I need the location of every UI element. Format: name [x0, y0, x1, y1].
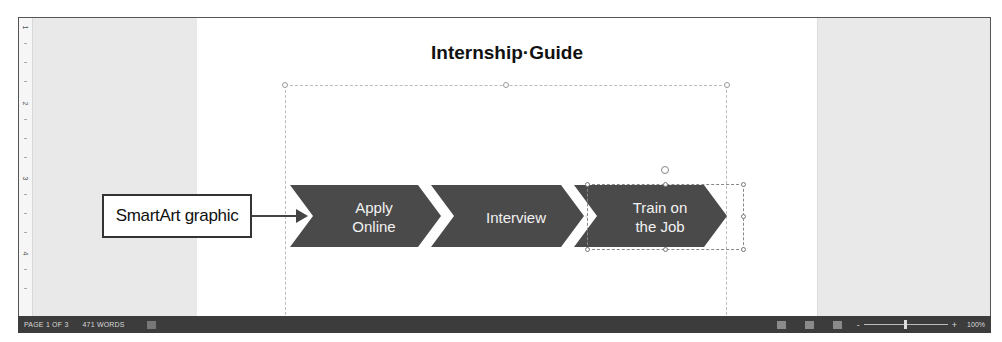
word-count[interactable]: 471 WORDS — [82, 321, 124, 328]
shape-handle-top-right[interactable] — [741, 182, 746, 187]
ruler-mark-2: 2 — [22, 100, 29, 108]
callout-arrow-icon — [296, 209, 310, 223]
resize-handle-top[interactable] — [503, 82, 509, 88]
zoom-slider[interactable] — [864, 324, 948, 325]
zoom-level[interactable]: 100% — [967, 321, 985, 328]
shape-handle-right[interactable] — [741, 214, 746, 219]
ruler-tick — [24, 194, 27, 195]
web-layout-icon[interactable] — [833, 321, 842, 329]
ruler-mark-4: 4 — [22, 250, 29, 258]
rotate-handle-icon[interactable] — [661, 166, 669, 174]
document-title[interactable]: Internship·Guide — [197, 42, 817, 64]
vertical-ruler[interactable]: 1 2 3 4 — [19, 18, 33, 316]
print-layout-icon[interactable] — [805, 321, 814, 329]
ruler-tick — [24, 269, 27, 270]
document-page[interactable]: Internship·Guide Apply Online Interview … — [197, 18, 817, 316]
step-1-line-1: Apply — [352, 198, 395, 217]
ruler-tick — [24, 43, 27, 44]
ruler-tick — [24, 232, 27, 233]
resize-handle-top-left[interactable] — [282, 82, 288, 88]
zoom-slider-thumb[interactable] — [904, 320, 907, 329]
shape-handle-bottom[interactable] — [663, 247, 668, 252]
ruler-tick — [24, 157, 27, 158]
step-1-line-2: Online — [352, 217, 395, 236]
resize-handle-top-right[interactable] — [724, 82, 730, 88]
ruler-mark-3: 3 — [22, 175, 29, 183]
chevron-step-1-text[interactable]: Apply Online — [314, 188, 434, 246]
ruler-tick — [24, 138, 27, 139]
word-window: 1 2 3 4 Internship·Guide Appl — [18, 17, 991, 333]
shape-handle-bottom-left[interactable] — [585, 247, 590, 252]
read-mode-icon[interactable] — [777, 321, 786, 329]
step-2-line-1: Interview — [486, 208, 546, 227]
status-bar: PAGE 1 OF 3 471 WORDS - + 100% — [18, 316, 991, 333]
shape-handle-bottom-right[interactable] — [741, 247, 746, 252]
callout-pointer-line — [252, 215, 302, 217]
shape-handle-top-left[interactable] — [585, 182, 590, 187]
left-margin-area — [33, 18, 197, 316]
zoom-out-button[interactable]: - — [857, 320, 860, 330]
zoom-in-button[interactable]: + — [952, 320, 957, 330]
page-count[interactable]: PAGE 1 OF 3 — [24, 321, 68, 328]
selected-shape-outline[interactable] — [587, 184, 744, 250]
shape-handle-top[interactable] — [663, 182, 668, 187]
proofing-book-icon[interactable] — [147, 321, 156, 329]
ruler-tick — [24, 288, 27, 289]
ruler-tick — [24, 62, 27, 63]
smartart-callout-label: SmartArt graphic — [102, 194, 252, 238]
ruler-mark-1: 1 — [22, 24, 29, 32]
chevron-step-2-text[interactable]: Interview — [455, 188, 577, 246]
right-margin-area — [817, 18, 991, 316]
ruler-tick — [24, 213, 27, 214]
ruler-tick — [24, 119, 27, 120]
ruler-tick — [24, 81, 27, 82]
